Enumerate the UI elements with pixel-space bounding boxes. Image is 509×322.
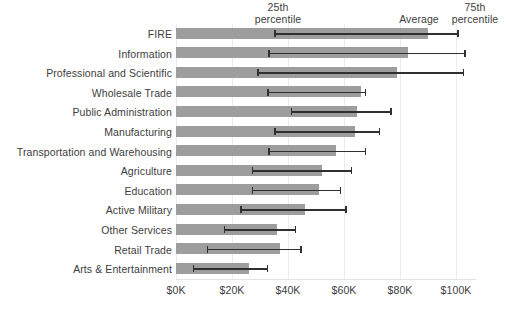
x-tick-40K: $40K: [258, 284, 318, 296]
x-axis-baseline: [176, 279, 476, 280]
error-bar-cap-25th: [274, 30, 276, 37]
error-bar-cap-25th: [193, 265, 195, 272]
y-axis-category-labels: FIREInformationProfessional and Scientif…: [0, 24, 172, 280]
error-bar-line: [268, 53, 465, 55]
error-bar-cap-25th: [291, 108, 293, 115]
error-bar-cap-25th: [274, 128, 276, 135]
error-bar-cap-75th: [457, 30, 459, 37]
x-tick-20K: $20K: [202, 284, 262, 296]
bar-row[interactable]: [176, 220, 509, 240]
bar-row[interactable]: [176, 83, 509, 103]
error-bar-cap-75th: [345, 206, 347, 213]
x-tick-0K: $0K: [146, 284, 206, 296]
error-bar-line: [291, 111, 392, 113]
error-bar-cap-25th: [252, 187, 254, 194]
bar-row[interactable]: [176, 259, 509, 279]
error-bar-cap-25th: [268, 50, 270, 57]
chart-container: 25th percentile Average 75th percentile …: [0, 0, 509, 322]
y-axis-label-arts-entertainment: Arts & Entertainment: [0, 259, 172, 279]
error-bar-cap-75th: [463, 69, 465, 76]
error-bar-cap-25th: [257, 69, 259, 76]
x-axis-tick-labels: $0K$20K$40K$60K$80K$100K: [0, 284, 509, 302]
error-bar-cap-25th: [240, 206, 242, 213]
y-axis-label-agriculture: Agriculture: [0, 161, 172, 181]
bar-row[interactable]: [176, 181, 509, 201]
y-axis-label-active-military: Active Military: [0, 200, 172, 220]
error-bar-cap-75th: [295, 226, 297, 233]
error-bar-line: [252, 190, 342, 192]
y-axis-label-public-administration: Public Administration: [0, 102, 172, 122]
bar-row[interactable]: [176, 200, 509, 220]
bar-row[interactable]: [176, 161, 509, 181]
bar-row[interactable]: [176, 240, 509, 260]
y-axis-label-manufacturing: Manufacturing: [0, 122, 172, 142]
error-bar-line: [224, 229, 297, 231]
annotation-25th-percentile: 25th percentile: [233, 2, 323, 25]
error-bar-line: [252, 170, 353, 172]
error-bar-line: [274, 131, 380, 133]
bar-row[interactable]: [176, 44, 509, 64]
x-tick-80K: $80K: [370, 284, 430, 296]
y-axis-label-other-services: Other Services: [0, 220, 172, 240]
error-bar-line: [240, 209, 346, 211]
error-bar-cap-25th: [252, 167, 254, 174]
error-bar-cap-75th: [340, 187, 342, 194]
y-axis-label-education: Education: [0, 181, 172, 201]
error-bar-line: [274, 33, 459, 35]
bar-row[interactable]: [176, 102, 509, 122]
bar-row[interactable]: [176, 63, 509, 83]
error-bar-line: [268, 151, 366, 153]
bar-row[interactable]: [176, 142, 509, 162]
y-axis-label-information: Information: [0, 44, 172, 64]
bar-row[interactable]: [176, 24, 509, 44]
x-tick-60K: $60K: [314, 284, 374, 296]
error-bar-cap-75th: [390, 108, 392, 115]
annotation-75th-percentile: 75th percentile: [440, 2, 509, 25]
bar-row[interactable]: [176, 122, 509, 142]
error-bar-cap-25th: [207, 246, 209, 253]
y-axis-label-retail-trade: Retail Trade: [0, 240, 172, 260]
y-axis-label-professional-and-scientific: Professional and Scientific: [0, 63, 172, 83]
error-bar-cap-75th: [300, 246, 302, 253]
y-axis-label-transportation-and-warehousing: Transportation and Warehousing: [0, 142, 172, 162]
error-bar-cap-25th: [224, 226, 226, 233]
error-bar-cap-25th: [268, 148, 270, 155]
error-bar-cap-25th: [267, 89, 269, 96]
error-bar-cap-75th: [267, 265, 269, 272]
y-axis-label-fire: FIRE: [0, 24, 172, 44]
y-axis-label-wholesale-trade: Wholesale Trade: [0, 83, 172, 103]
error-bar-line: [207, 249, 302, 251]
error-bar-cap-75th: [464, 50, 466, 57]
error-bar-cap-75th: [365, 148, 367, 155]
error-bar-line: [267, 92, 366, 94]
error-bar-cap-75th: [379, 128, 381, 135]
error-bar-cap-75th: [351, 167, 353, 174]
error-bar-line: [193, 268, 269, 270]
error-bar-cap-75th: [365, 89, 367, 96]
error-bar-line: [257, 72, 464, 74]
x-tick-100K: $100K: [426, 284, 486, 296]
plot-area: [176, 24, 476, 280]
